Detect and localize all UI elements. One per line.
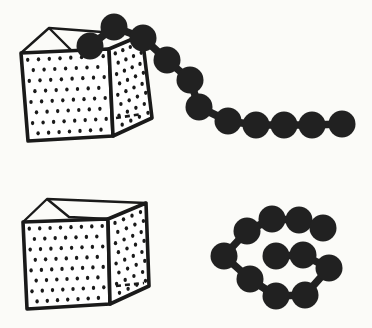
box-front-stipple-dot (104, 96, 107, 100)
box-front-stipple-dot (105, 117, 108, 121)
box-front-stipple-dot (78, 129, 81, 133)
box-front-stipple-dot (35, 299, 38, 303)
box-front-stipple-dot (35, 279, 38, 283)
chain-bead (310, 215, 337, 242)
box-front-stipple-dot (80, 225, 83, 229)
box-right-stipple-dot (128, 98, 131, 102)
box-front-stipple-dot (67, 108, 70, 112)
box-right-stipple-dot (118, 291, 121, 295)
box-right-stipple-dot (143, 102, 146, 106)
box-front-stipple-dot (44, 89, 47, 93)
box-front-stipple-dot (91, 245, 94, 249)
box-right-stipple-dot (121, 48, 124, 52)
box-right-stipple-dot (122, 217, 125, 221)
box-front-stipple-dot (37, 57, 40, 61)
chain-bead (130, 25, 157, 52)
box-front-stipple-dot (92, 286, 95, 290)
box-right-stipple-dot (133, 223, 136, 227)
box-front-stipple-dot (28, 79, 31, 83)
box-right-stipple-dot (129, 45, 132, 49)
box-front-stipple-dot (55, 88, 58, 92)
box-right-stipple-dot (125, 246, 128, 250)
box-front-stipple-dot (91, 265, 94, 269)
box-front-stipple-dot (61, 98, 64, 102)
box-front-stipple-dot (34, 258, 37, 262)
box-right-stipple-dot (115, 72, 118, 76)
chain-bead (299, 112, 326, 139)
box-front-stipple-dot (97, 86, 100, 90)
chain-bead (237, 266, 264, 293)
box-front-stipple-dot (64, 66, 67, 70)
box-front-stipple-dot (96, 255, 99, 259)
chain-bead (329, 111, 356, 138)
box-right-stipple-dot (140, 82, 143, 86)
chain-bead (186, 94, 213, 121)
box-front-stipple-dot (55, 277, 58, 281)
box-front-stipple-dot (81, 266, 84, 270)
box-front-stipple-dot (92, 76, 95, 80)
box-front-stipple-dot (35, 110, 38, 114)
box-front-stipple-dot (94, 117, 97, 121)
box-front-stipple-dot (60, 267, 63, 271)
chain-bead (263, 243, 290, 270)
chain-bead (154, 47, 181, 74)
box-front-stipple-dot (40, 268, 43, 272)
figure-canvas (0, 0, 372, 328)
box-right-stipple-dot (117, 270, 120, 274)
box-right-stipple-dot (131, 234, 134, 238)
box-front-stipple-dot (68, 129, 71, 133)
box-front-stipple-dot (49, 78, 52, 82)
box-right-stipple-dot (132, 274, 135, 278)
box-front-stipple-dot (33, 89, 36, 93)
chain-bead (177, 67, 204, 94)
box-right-stipple-dot (146, 111, 149, 115)
chain-bead (77, 33, 104, 60)
box-front-stipple-dot (36, 131, 39, 135)
box-front-stipple-dot (75, 66, 78, 70)
box-front-stipple-dot (42, 68, 45, 72)
box-front-stipple-dot (82, 286, 85, 290)
box-front-stipple-dot (103, 75, 106, 79)
box-right-stipple-dot (130, 214, 133, 218)
box-right-stipple-dot (118, 81, 121, 85)
box-front-stipple-dot (39, 247, 42, 251)
polymer-diagram (0, 0, 372, 328)
box-front-stipple-dot (45, 278, 48, 282)
box-right-stipple-dot (132, 85, 135, 89)
box-right-stipple-dot (142, 239, 145, 243)
box-front-stipple-dot (87, 86, 90, 90)
box-right-stipple-dot (142, 219, 145, 223)
box-front-stipple-dot (101, 244, 104, 248)
box-front-stipple-dot (102, 265, 105, 269)
box-front-stipple-dot (85, 235, 88, 239)
box-right-stipple-dot (124, 278, 127, 282)
box-front-stipple-dot (38, 226, 41, 230)
box-front-stipple-dot (56, 109, 59, 113)
box-front-stipple-dot (61, 288, 64, 292)
box-front-stipple-dot (98, 107, 101, 111)
box-front-stipple-dot (45, 110, 48, 114)
box-front-stipple-dot (89, 128, 92, 132)
box-front-stipple-dot (32, 68, 35, 72)
box-front-stipple-dot (69, 56, 72, 60)
box-front-stipple-dot (48, 57, 51, 61)
box-front-stipple-dot (28, 227, 31, 231)
box-right-stipple-dot (119, 102, 122, 106)
box-front-stipple-dot (51, 288, 54, 292)
chain-bead (101, 14, 128, 41)
box-front-stipple-dot (29, 248, 32, 252)
box-front-stipple-dot (71, 287, 74, 291)
box-right-stipple-dot (114, 51, 117, 55)
box-right-stipple-dot (132, 54, 135, 58)
box-front-stipple-dot (29, 268, 32, 272)
box-right-stipple-dot (124, 57, 127, 61)
box-front-stipple-dot (88, 107, 91, 111)
box-front-stipple-dot (62, 119, 65, 123)
chain-bead (292, 282, 319, 309)
box-right-stipple-dot (129, 119, 132, 123)
box-right-stipple-dot (142, 71, 145, 75)
box-right-stipple-dot (134, 74, 137, 78)
box-front-stipple-dot (95, 234, 98, 238)
box-front-stipple-dot (87, 296, 90, 300)
box-front-stipple-dot (81, 76, 84, 80)
